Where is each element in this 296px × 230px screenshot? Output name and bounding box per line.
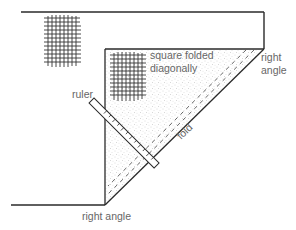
label-diagonally: diagonally	[150, 62, 198, 74]
label-square-folded: square folded	[150, 49, 214, 61]
label-angle-top: angle	[261, 64, 287, 76]
label-right-top: right	[261, 51, 282, 63]
folded-square-diagram: square folded diagonally right angle rul…	[0, 0, 296, 230]
grid-patch-icon	[44, 15, 81, 67]
label-right-angle-bottom: right angle	[82, 210, 131, 222]
label-ruler: ruler	[72, 88, 94, 100]
